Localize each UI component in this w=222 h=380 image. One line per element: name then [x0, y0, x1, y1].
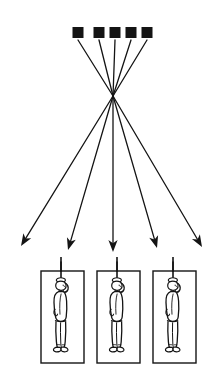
outgoing-ray-4	[113, 96, 154, 239]
image-frame-3	[153, 257, 196, 363]
arrowhead-group	[21, 233, 202, 252]
source-square-3	[110, 27, 121, 38]
incoming-ray-2	[99, 40, 113, 96]
image-frame-2	[97, 257, 140, 363]
figure-canvas: Pinhole projection diagram: five sources…	[0, 0, 222, 380]
hanging-person-1	[53, 262, 68, 352]
incoming-ray-5	[113, 40, 147, 96]
incoming-ray-group	[78, 40, 147, 96]
hanging-person-2	[109, 262, 124, 352]
source-square-1	[73, 27, 84, 38]
projection-diagram	[0, 0, 222, 380]
image-frame-1	[41, 257, 84, 363]
source-square-5	[142, 27, 153, 38]
outgoing-ray-2	[71, 96, 113, 241]
arrowhead-5	[192, 234, 202, 247]
source-square-row	[73, 27, 153, 38]
source-square-2	[94, 27, 105, 38]
incoming-ray-3	[113, 40, 115, 96]
outgoing-ray-5	[113, 96, 197, 239]
incoming-ray-1	[78, 40, 113, 96]
incoming-ray-4	[113, 40, 131, 96]
outgoing-ray-group	[26, 96, 198, 243]
outgoing-ray-1	[26, 96, 113, 238]
source-square-4	[126, 27, 137, 38]
hanging-person-3	[165, 262, 180, 352]
arrowhead-1	[21, 233, 31, 246]
